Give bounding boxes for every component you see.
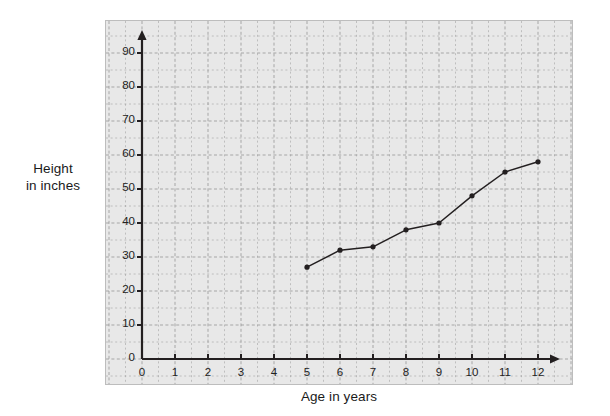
y-axis-label-line-1: Height	[6, 160, 100, 177]
x-tick-label: 3	[230, 366, 252, 378]
x-tick-label: 2	[197, 366, 219, 378]
x-tick-label: 0	[131, 366, 153, 378]
y-tick-label: 90	[109, 45, 135, 57]
data-series-line	[106, 21, 573, 385]
x-tick-label: 4	[263, 366, 285, 378]
x-tick-label: 1	[164, 366, 186, 378]
y-tick-label: 50	[109, 181, 135, 193]
y-tick-label: 30	[109, 249, 135, 261]
y-tick-label: 40	[109, 215, 135, 227]
x-tick-label: 10	[461, 366, 483, 378]
y-axis-label-line-2: in inches	[6, 177, 100, 194]
x-tick-label: 6	[329, 366, 351, 378]
y-tick-label: 60	[109, 147, 135, 159]
x-tick-label: 5	[296, 366, 318, 378]
chart-figure: Height in inches 01020304050607080900123…	[0, 0, 610, 416]
y-tick-label: 70	[109, 113, 135, 125]
y-tick-label: 20	[109, 283, 135, 295]
x-tick-label: 12	[527, 366, 549, 378]
y-tick-label: 10	[109, 317, 135, 329]
x-tick-label: 7	[362, 366, 384, 378]
y-tick-label: 0	[109, 351, 135, 363]
x-axis-label: Age in years	[105, 389, 573, 404]
plot-area: 01020304050607080900123456789101112	[105, 20, 573, 385]
x-tick-label: 9	[428, 366, 450, 378]
x-tick-label: 11	[494, 366, 516, 378]
y-tick-label: 80	[109, 79, 135, 91]
x-tick-label: 8	[395, 366, 417, 378]
y-axis-label: Height in inches	[6, 160, 100, 195]
